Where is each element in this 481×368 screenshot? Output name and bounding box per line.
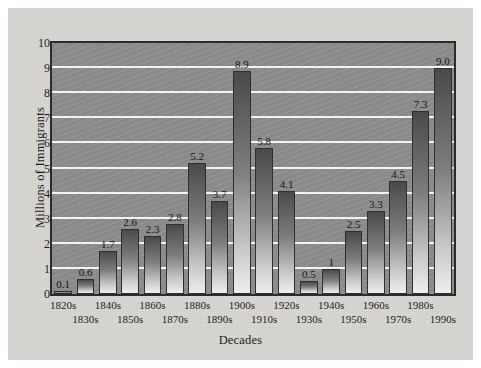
bar-label-1940s: 1 [313, 257, 349, 268]
bar-label-1870s: 2.8 [157, 212, 193, 223]
bar-1910s [255, 148, 273, 294]
y-axis-tick-6: 6 [10, 137, 50, 149]
gridline-8 [52, 91, 454, 93]
bar-1930s [300, 281, 318, 294]
x-axis-tick-1870s: 1870s [162, 314, 188, 325]
x-axis-tick-1980s: 1980s [407, 300, 433, 311]
gridline-7 [52, 116, 454, 118]
y-axis-tick-9: 9 [10, 62, 50, 74]
x-axis-tick-1900s: 1900s [229, 300, 255, 311]
y-axis-tick-1: 1 [10, 263, 50, 275]
x-axis-tick-labels: 1820s1830s1840s1850s1860s1870s1880s1890s… [50, 298, 456, 330]
y-axis-tick-7: 7 [10, 112, 50, 124]
x-axis-tick-1940s: 1940s [318, 300, 344, 311]
x-axis-tick-1970s: 1970s [385, 314, 411, 325]
x-axis-title: Decades [8, 333, 473, 348]
bar-1820s [54, 291, 72, 294]
bar-1970s [389, 181, 407, 294]
bar-label-1900s: 8.9 [224, 59, 260, 70]
bar-label-1890s: 3.7 [202, 189, 238, 200]
gridline-10 [52, 41, 454, 43]
bar-1980s [412, 111, 430, 294]
bar-label-1840s: 1.7 [90, 239, 126, 250]
chart-figure: Millions of Immigrants 012345678910 0.10… [8, 8, 473, 360]
x-axis-tick-1960s: 1960s [363, 300, 389, 311]
x-axis-tick-1880s: 1880s [184, 300, 210, 311]
bar-label-1820s: 0.1 [45, 279, 81, 290]
y-axis-tick-5: 5 [10, 163, 50, 175]
y-axis-tick-8: 8 [10, 87, 50, 99]
x-axis-tick-1890s: 1890s [206, 314, 232, 325]
y-axis-tick-labels: 012345678910 [8, 8, 50, 360]
y-axis-tick-0: 0 [10, 288, 50, 300]
x-axis-tick-1950s: 1950s [340, 314, 366, 325]
x-axis-tick-1830s: 1830s [72, 314, 98, 325]
bar-label-1920s: 4.1 [269, 179, 305, 190]
x-axis-tick-1840s: 1840s [95, 300, 121, 311]
x-axis-tick-1820s: 1820s [50, 300, 76, 311]
bar-label-1830s: 0.6 [68, 267, 104, 278]
y-axis-tick-3: 3 [10, 213, 50, 225]
y-axis-tick-2: 2 [10, 238, 50, 250]
y-axis-tick-4: 4 [10, 188, 50, 200]
bar-1890s [211, 201, 229, 294]
bar-label-1950s: 2.5 [336, 219, 372, 230]
x-axis-tick-1850s: 1850s [117, 314, 143, 325]
bar-label-1980s: 7.3 [403, 99, 439, 110]
bar-1860s [144, 236, 162, 294]
bar-label-1930s: 0.5 [291, 269, 327, 280]
x-axis-tick-1920s: 1920s [273, 300, 299, 311]
x-axis-tick-1930s: 1930s [296, 314, 322, 325]
bar-label-1970s: 4.5 [380, 169, 416, 180]
bar-label-1960s: 3.3 [358, 199, 394, 210]
bar-1880s [188, 163, 206, 294]
bar-label-1910s: 5.8 [246, 136, 282, 147]
bar-1900s [233, 71, 251, 294]
x-axis-tick-1990s: 1990s [430, 314, 456, 325]
bar-label-1990s: 9.0 [425, 56, 461, 67]
y-axis-tick-10: 10 [10, 37, 50, 49]
bar-label-1880s: 5.2 [179, 151, 215, 162]
bar-label-1860s: 2.3 [135, 224, 171, 235]
x-axis-tick-1910s: 1910s [251, 314, 277, 325]
x-axis-tick-1860s: 1860s [139, 300, 165, 311]
